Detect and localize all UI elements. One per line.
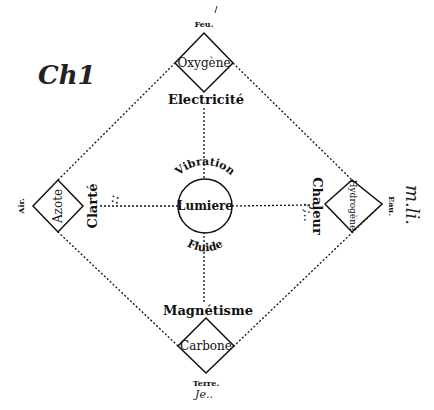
center-node: Lumiere Vibration Fluide [170, 155, 240, 255]
top-arc-label: Vibration [172, 155, 238, 179]
bottom-outer-label: Terre. [193, 378, 220, 388]
bottom-inner-label: Magnétisme [163, 303, 253, 318]
top-outer-label: Feu. [195, 19, 214, 29]
left-handwriting: :: [104, 193, 121, 205]
left-inner-label: Clarté [85, 184, 100, 229]
top-element-label: Oxygène [178, 56, 231, 70]
left-element-label: Azote [51, 189, 65, 224]
top-inner-label: Electricité [168, 92, 244, 107]
top-tick-mark [215, 6, 217, 13]
node-bottom-carbone: Carbone Magnétisme Terre. Je.. [163, 303, 253, 401]
center-label: Lumiere [177, 199, 233, 213]
bottom-element-label: Carbone [180, 339, 232, 353]
right-handwriting: m.li. [402, 185, 423, 225]
left-outer-label: Air. [16, 198, 26, 215]
bottom-arc-label: Fluide [185, 237, 225, 254]
right-inner-handwriting: ?;.. [301, 202, 316, 222]
right-outer-label: Eau. [387, 196, 397, 216]
node-right-hydrogene: Hydrogène Eau. Chaleur ?;.. [301, 177, 397, 235]
top-left-handwriting: Ch1 [38, 60, 96, 90]
right-element-label: Hydrogène [348, 180, 358, 231]
bottom-handwriting: Je.. [193, 388, 213, 401]
elements-diagram: Lumiere Vibration Fluide Oxygène Feu. El… [0, 0, 434, 410]
node-top-oxygene: Oxygène Feu. Electricité [168, 6, 244, 107]
